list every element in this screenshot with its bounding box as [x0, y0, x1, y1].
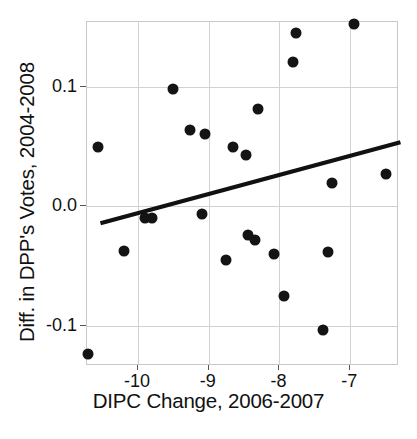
y-axis-title: Diff. in DPP's Votes, 2004-2008 [15, 22, 39, 382]
y-axis-tick [80, 86, 86, 87]
x-axis-tick [137, 365, 138, 370]
x-axis-tick [349, 365, 350, 370]
y-axis-tick-label: 0.0 [52, 195, 77, 216]
x-axis-tick [208, 365, 209, 370]
y-axis-tick [80, 325, 86, 326]
regression-line [87, 22, 399, 366]
y-axis-tick-label: 0.1 [52, 76, 77, 97]
x-axis-title: DIPC Change, 2006-2007 [0, 389, 417, 413]
x-axis-tick [278, 365, 279, 370]
y-axis-tick [80, 205, 86, 206]
scatter-plot-figure: Diff. in DPP's Votes, 2004-2008 -10-9-8-… [0, 0, 417, 439]
y-axis-tick-label: -0.1 [46, 314, 77, 335]
plot-area [86, 21, 398, 365]
